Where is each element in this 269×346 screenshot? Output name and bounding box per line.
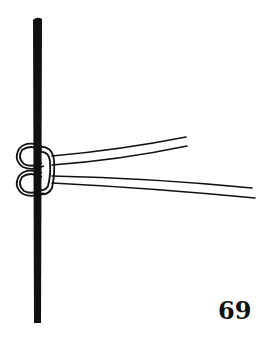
page-number: 69	[218, 296, 251, 325]
lower-cord	[52, 176, 255, 198]
knot-illustration	[0, 0, 269, 346]
upper-cord	[52, 137, 187, 165]
